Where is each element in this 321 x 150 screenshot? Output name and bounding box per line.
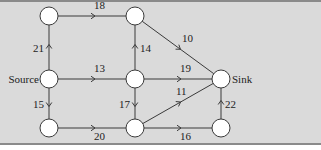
flow-network-diagram: 182114101319151711201622SourceSink (0, 0, 321, 150)
edge-capacity-label: 18 (94, 0, 106, 11)
node-m (126, 70, 144, 88)
edge-capacity-label: 14 (140, 42, 152, 54)
node-label-sink: Sink (232, 73, 253, 85)
edge-capacity-label: 17 (119, 98, 131, 110)
edge-capacity-label: 15 (33, 98, 45, 110)
node-d (126, 119, 144, 137)
node-e (212, 119, 230, 137)
node-sink (212, 70, 230, 88)
edge-capacity-label: 13 (94, 62, 106, 74)
edge-capacity-label: 10 (182, 32, 194, 44)
edge-b-t (142, 21, 213, 73)
edge-capacity-label: 11 (176, 85, 187, 97)
node-c (40, 119, 58, 137)
node-source (40, 70, 58, 88)
edge-capacity-label: 21 (33, 42, 44, 54)
edge-capacity-label: 22 (225, 98, 236, 110)
edge-capacity-label: 20 (94, 130, 106, 142)
node-label-source: Source (8, 73, 39, 85)
edge-capacity-label: 16 (180, 130, 192, 142)
node-a (40, 7, 58, 25)
node-b (126, 7, 144, 25)
edge-capacity-label: 19 (180, 62, 192, 74)
